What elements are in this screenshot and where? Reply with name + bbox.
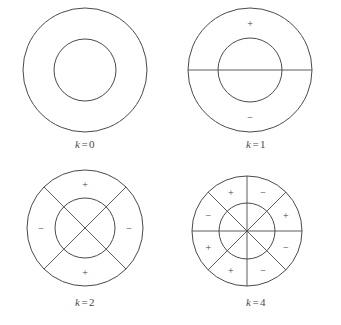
caption-equals: = [80, 296, 89, 308]
mode-diagram-k1: +− [171, 0, 341, 140]
minus-sign-2: − [126, 223, 132, 234]
mode-panel-k2: +−−+ k=2 [0, 163, 170, 325]
panel-caption-k2: k=2 [0, 296, 170, 308]
minus-sign-1: − [247, 112, 253, 123]
panel-caption-k1: k=1 [171, 138, 341, 150]
annular-mode-shape-figure: k=0 +− k=1 +−−+ k=2 +−+−−++− k=4 [0, 0, 341, 325]
caption-equals: = [251, 296, 260, 308]
minus-sign-3: − [283, 242, 289, 253]
mode-panel-k1: +− k=1 [171, 0, 341, 162]
caption-equals: = [251, 138, 260, 150]
minus-sign-1: − [260, 187, 266, 198]
inner-circle [54, 39, 116, 101]
caption-value: 4 [260, 296, 266, 308]
minus-sign-7: − [205, 210, 211, 221]
plus-sign-0: + [247, 18, 253, 29]
caption-equals: = [80, 138, 89, 150]
mode-diagram-k0 [0, 0, 170, 140]
minus-sign-1: − [38, 223, 44, 234]
caption-value: 2 [89, 296, 95, 308]
plus-sign-6: + [205, 242, 211, 253]
plus-sign-0: + [82, 179, 88, 190]
mode-panel-k0: k=0 [0, 0, 170, 162]
plus-sign-0: + [228, 187, 234, 198]
plus-sign-3: + [82, 267, 88, 278]
plus-sign-5: + [228, 265, 234, 276]
panel-caption-k0: k=0 [0, 138, 170, 150]
mode-panel-k4: +−+−−++− k=4 [171, 163, 341, 325]
plus-sign-2: + [283, 210, 289, 221]
caption-value: 0 [89, 138, 95, 150]
minus-sign-4: − [260, 265, 266, 276]
mode-diagram-k4: +−+−−++− [171, 163, 341, 293]
caption-value: 1 [260, 138, 266, 150]
mode-diagram-k2: +−−+ [0, 163, 170, 293]
panel-caption-k4: k=4 [171, 296, 341, 308]
outer-circle [23, 8, 147, 132]
